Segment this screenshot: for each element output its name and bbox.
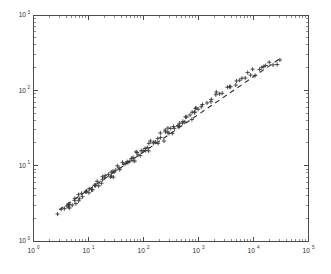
x-tick-label-1-exponent: 1	[92, 245, 95, 250]
x-tick-label-2-base: 10	[138, 247, 146, 254]
y-tick-label-0-base: 10	[19, 237, 27, 244]
x-tick-label-0-exponent: 0	[37, 245, 40, 250]
y-tick-label-3-exponent: 3	[28, 10, 31, 15]
y-tick-label-0-exponent: 0	[28, 236, 31, 241]
x-tick-label-3-base: 10	[193, 247, 201, 254]
x-tick-label-5-exponent: 5	[312, 245, 315, 250]
y-tick-label-2-exponent: 2	[28, 85, 31, 90]
x-tick-label-5-base: 10	[303, 247, 311, 254]
x-tick-label-2-exponent: 2	[147, 245, 150, 250]
loglog-scatter-plot: 100101102103104105 100101102103	[0, 0, 331, 274]
x-tick-label-4-base: 10	[248, 247, 256, 254]
y-tick-label-2-base: 10	[19, 87, 27, 94]
x-tick-label-4-exponent: 4	[257, 245, 260, 250]
x-tick-label-0-base: 10	[28, 247, 36, 254]
figure-container: 100101102103104105 100101102103	[0, 0, 331, 274]
x-tick-label-1-base: 10	[83, 247, 91, 254]
y-tick-label-3-base: 10	[19, 11, 27, 18]
y-tick-label-1-exponent: 1	[28, 160, 31, 165]
x-tick-label-3-exponent: 3	[202, 245, 205, 250]
y-tick-label-1-base: 10	[19, 162, 27, 169]
